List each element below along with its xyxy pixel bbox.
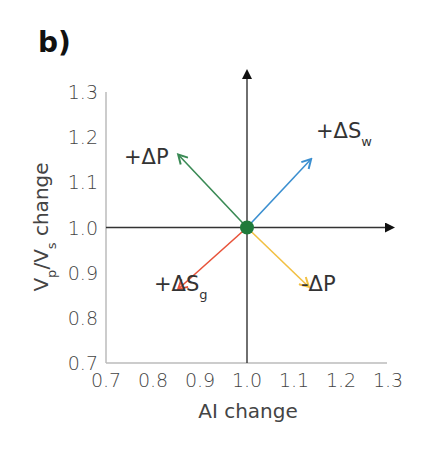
y-tick-label: 0.9 <box>68 262 98 284</box>
y-tick-labels: 0.70.80.91.01.11.21.3 <box>68 81 98 374</box>
vector-labels: +ΔP+ΔSw+ΔSg-ΔP <box>124 119 372 302</box>
x-tick-labels: 0.70.80.91.01.11.21.3 <box>91 369 403 391</box>
x-axis-label: AI change <box>198 399 298 423</box>
center-crosshair <box>106 74 390 363</box>
x-tick-label: 1.3 <box>373 369 403 391</box>
vector-arrow <box>179 155 247 227</box>
vector-label: -ΔP <box>301 272 336 296</box>
vector-label: +ΔSw <box>316 119 372 149</box>
y-axis-label: Vp/Vs change <box>29 162 59 291</box>
vector-arrow <box>247 228 308 287</box>
y-tick-label: 0.8 <box>68 307 98 329</box>
x-tick-label: 0.7 <box>91 369 121 391</box>
origin-point <box>240 221 254 235</box>
x-tick-label: 0.8 <box>138 369 168 391</box>
y-tick-label: 1.2 <box>68 126 98 148</box>
y-tick-label: 1.3 <box>68 81 98 103</box>
vector-chart: 0.70.80.91.01.11.21.3 0.70.80.91.01.11.2… <box>0 0 424 457</box>
y-tick-label: 1.1 <box>68 171 98 193</box>
vector-arrow <box>247 160 310 228</box>
x-tick-label: 1.1 <box>279 369 309 391</box>
x-tick-label: 1.2 <box>326 369 356 391</box>
vector-label: +ΔSg <box>154 272 208 302</box>
x-tick-label: 1.0 <box>232 369 262 391</box>
x-tick-label: 0.9 <box>185 369 215 391</box>
vector-label: +ΔP <box>124 145 169 169</box>
y-tick-label: 1.0 <box>68 217 98 239</box>
